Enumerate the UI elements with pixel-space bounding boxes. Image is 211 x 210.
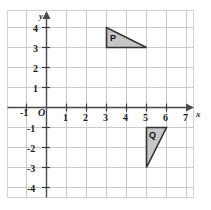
y-tick-label-neg1: -1 [27,124,35,134]
coordinate-grid-figure: y x O 1 2 3 4 5 6 7 -1 1 2 3 4 -1 -2 -3 … [0,0,211,210]
y-tick-label-4: 4 [33,24,38,34]
x-tick-label-1: 1 [63,113,68,123]
x-tick-label-3: 3 [103,113,108,123]
y-tick-label-1: 1 [33,84,38,94]
x-tick-label-2: 2 [83,113,88,123]
plot-border [8,11,194,198]
y-tick-label-2: 2 [33,64,38,74]
x-tick-label-neg1: -1 [20,108,28,118]
x-axis-label: x [196,110,201,119]
y-tick-label-neg2: -2 [27,144,35,154]
x-tick-label-6: 6 [163,113,168,123]
x-tick-label-4: 4 [123,113,128,123]
y-tick-label-3: 3 [33,44,38,54]
origin-label: O [38,108,45,118]
triangle-p-label: P [110,34,116,43]
x-tick-label-7: 7 [183,113,188,123]
y-tick-label-neg4: -4 [27,184,35,194]
triangle-q-label: Q [149,131,156,140]
y-tick-label-neg3: -3 [27,164,35,174]
x-tick-label-5: 5 [143,113,148,123]
grid-canvas [0,0,211,210]
y-axis-label: y [39,12,43,21]
